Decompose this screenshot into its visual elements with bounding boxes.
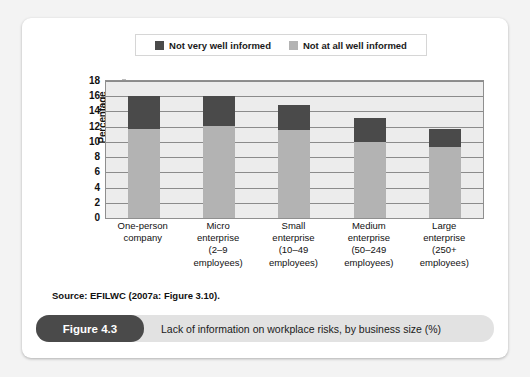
y-axis-tick-label: 4 [94, 181, 100, 192]
y-axis-tick-label: 18 [89, 75, 100, 86]
chart-legend: Not very well informed Not at all well i… [135, 34, 427, 56]
figure-caption-bar: Figure 4.3 Lack of information on workpl… [36, 315, 494, 342]
y-axis-tick-label: 2 [94, 196, 100, 207]
bar-5 [429, 129, 461, 218]
source-note: Source: EFILWC (2007a: Figure 3.10). [52, 290, 220, 301]
legend-swatch-dark-icon [155, 41, 164, 50]
x-axis-label-4: Mediumenterprise(50–249employees) [334, 220, 404, 269]
y-axis-tick-label: 6 [94, 166, 100, 177]
y-axis-tick-label: 12 [89, 120, 100, 131]
y-axis-tick-label: 0 [94, 212, 100, 223]
legend-entry-not-very-well-informed: Not very well informed [155, 40, 271, 51]
bar-series-group [106, 81, 483, 218]
bar-1 [128, 96, 160, 218]
legend-swatch-light-icon [289, 41, 298, 50]
x-axis-labels: One-personcompanyMicroenterprise(2–9empl… [105, 220, 482, 269]
figure-number-badge: Figure 4.3 [36, 315, 144, 342]
x-axis-label-5: Largeenterprise(250+employees) [409, 220, 479, 269]
bar-segment-not-at-all-well-informed [128, 129, 160, 218]
legend-label-not-at-all-well-informed: Not at all well informed [303, 40, 407, 51]
bar-segment-not-at-all-well-informed [354, 142, 386, 218]
legend-label-not-very-well-informed: Not very well informed [169, 40, 271, 51]
bar-segment-not-very-well-informed [203, 96, 235, 126]
bar-segment-not-very-well-informed [429, 129, 461, 147]
y-axis-tick-label: 14 [89, 105, 100, 116]
bar-segment-not-at-all-well-informed [203, 126, 235, 218]
chart-plot-area: Percentage 024681012141618 One-personcom… [58, 62, 498, 312]
y-axis-tick-label: 16 [89, 90, 100, 101]
y-axis-tick-label: 8 [94, 151, 100, 162]
y-axis-ticks: 024681012141618 [78, 80, 100, 217]
legend-entry-not-at-all-well-informed: Not at all well informed [289, 40, 407, 51]
x-axis-label-3: Smallenterprise(10–49employees) [258, 220, 328, 269]
x-axis-label-2: Microenterprise(2–9employees) [183, 220, 253, 269]
bar-segment-not-very-well-informed [354, 118, 386, 142]
figure-caption-text: Lack of information on workplace risks, … [161, 323, 441, 335]
bar-2 [203, 96, 235, 218]
plot-canvas [105, 80, 484, 219]
bar-segment-not-very-well-informed [128, 96, 160, 129]
bar-3 [278, 105, 310, 218]
figure-card: Not very well informed Not at all well i… [22, 18, 508, 358]
x-axis-label-1: One-personcompany [108, 220, 178, 269]
bar-segment-not-at-all-well-informed [278, 130, 310, 218]
bar-segment-not-at-all-well-informed [429, 147, 461, 218]
y-axis-tick-label: 10 [89, 135, 100, 146]
bar-4 [354, 118, 386, 218]
page-background: Not very well informed Not at all well i… [0, 0, 530, 377]
bar-segment-not-very-well-informed [278, 105, 310, 129]
